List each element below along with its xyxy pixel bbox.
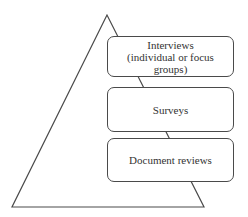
pyramid-diagram: Interviews (individual or focus groups) … <box>0 0 248 217</box>
level-box-interviews: Interviews (individual or focus groups) <box>107 36 234 77</box>
level-box-surveys: Surveys <box>107 87 234 132</box>
level-label-interviews: Interviews (individual or focus groups) <box>127 39 214 75</box>
level-label-document-reviews: Document reviews <box>129 154 212 166</box>
level-box-document-reviews: Document reviews <box>107 138 234 182</box>
level-label-surveys: Surveys <box>153 104 188 116</box>
